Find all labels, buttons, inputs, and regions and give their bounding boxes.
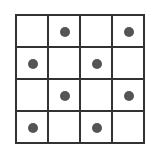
grid-cell-r1-c1 [47,46,79,78]
grid-cell-r3-c1 [47,110,79,142]
dot-icon [28,59,38,69]
dot-icon [60,27,70,37]
grid-cell-r1-c0 [15,46,47,78]
grid-cell-r2-c2 [79,78,111,110]
grid-cell-r3-c2 [79,110,111,142]
grid-cell-r1-c3 [111,46,143,78]
dot-icon [92,59,102,69]
dot-grid [15,14,145,144]
grid-cell-r0-c1 [47,14,79,46]
grid-cell-r3-c0 [15,110,47,142]
dot-icon [28,123,38,133]
dot-icon [124,27,134,37]
grid-cell-r1-c2 [79,46,111,78]
grid-cell-r2-c1 [47,78,79,110]
dot-icon [124,91,134,101]
grid-cell-r0-c0 [15,14,47,46]
grid-cell-r2-c3 [111,78,143,110]
dot-icon [60,91,70,101]
dot-icon [92,123,102,133]
grid-cell-r0-c2 [79,14,111,46]
grid-cell-r0-c3 [111,14,143,46]
grid-cell-r2-c0 [15,78,47,110]
grid-cell-r3-c3 [111,110,143,142]
